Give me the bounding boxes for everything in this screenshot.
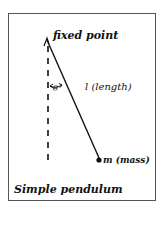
pivot-mark: [44, 38, 49, 46]
pendulum-bob: [96, 157, 101, 162]
pendulum-string: [47, 40, 99, 158]
mass-label: m (mass): [103, 156, 150, 165]
diagram-title: Simple pendulum: [14, 184, 123, 195]
length-label: l (length): [85, 82, 132, 92]
fixed-point-label: fixed point: [53, 30, 118, 41]
angle-theta-label: θ: [53, 85, 58, 93]
